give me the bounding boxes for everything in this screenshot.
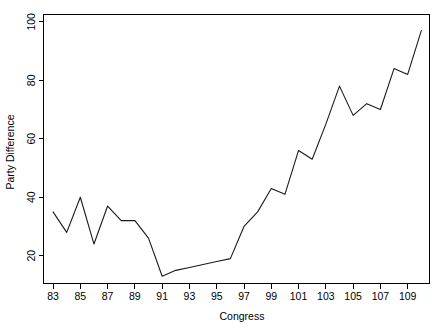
x-tick-label-101: 101: [290, 290, 308, 302]
line-chart-svg: 20406080100 8385878991939597991011031051…: [0, 0, 441, 328]
x-tick-label-103: 103: [317, 290, 335, 302]
y-tick-label-60: 60: [25, 133, 37, 145]
x-tick-label-83: 83: [47, 290, 59, 302]
x-tick-label-89: 89: [129, 290, 141, 302]
x-tick-label-87: 87: [102, 290, 114, 302]
x-tick-label-85: 85: [74, 290, 86, 302]
y-tick-label-100: 100: [25, 13, 37, 31]
x-tick-label-95: 95: [211, 290, 223, 302]
y-axis-tick-labels: 20406080100: [25, 13, 37, 262]
y-tick-label-80: 80: [25, 74, 37, 86]
y-tick-label-40: 40: [25, 191, 37, 203]
y-axis-title: Party Difference: [4, 114, 16, 189]
x-axis-title: Congress: [220, 310, 265, 322]
x-tick-label-105: 105: [344, 290, 362, 302]
x-axis-ticks: [53, 284, 408, 289]
party-difference-line: [53, 31, 421, 277]
y-axis-ticks: [39, 22, 44, 256]
x-tick-label-107: 107: [372, 290, 390, 302]
x-axis-tick-labels: 838587899193959799101103105107109: [47, 290, 416, 302]
x-tick-label-97: 97: [238, 290, 250, 302]
x-tick-label-93: 93: [184, 290, 196, 302]
x-tick-label-99: 99: [265, 290, 277, 302]
y-tick-label-20: 20: [25, 250, 37, 262]
chart-container: 20406080100 8385878991939597991011031051…: [0, 0, 441, 328]
x-tick-label-91: 91: [156, 290, 168, 302]
x-tick-label-109: 109: [399, 290, 417, 302]
